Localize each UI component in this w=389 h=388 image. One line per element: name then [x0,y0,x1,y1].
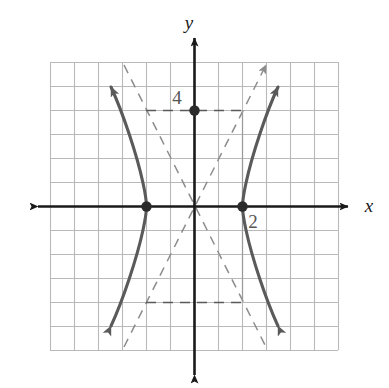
point-conjugate-top [189,105,199,115]
point-vertex-left [141,201,151,211]
point-vertex-right [237,201,247,211]
axes [38,38,348,375]
label-y-value-4: 4 [172,87,182,108]
label-x-value-2: 2 [248,211,258,232]
graph-canvas: 4 2 x y [0,0,389,388]
y-axis-label: y [183,12,194,33]
x-axis-label: x [364,195,374,216]
hyperbola-figure: 4 2 x y [0,0,389,388]
